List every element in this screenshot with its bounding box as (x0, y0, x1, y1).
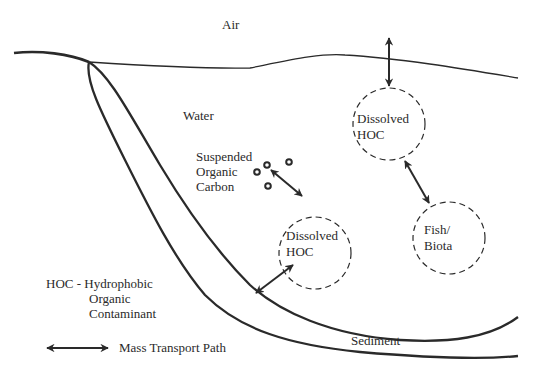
suspended-label-3: Carbon (196, 179, 235, 194)
particle-icon (254, 169, 260, 175)
arrow-dissolved-fish (405, 161, 429, 203)
dissolved-top-label-1: Dissolved (357, 111, 410, 126)
fish-label-2: Biota (424, 238, 452, 253)
water-label: Water (183, 108, 214, 123)
fish-label-1: Fish/ (424, 222, 450, 237)
legend-hoc-line-2: Organic (89, 291, 131, 306)
legend-arrow-label: Mass Transport Path (119, 340, 226, 355)
arrow-suspended-dissolved (271, 170, 302, 196)
air-label: Air (222, 17, 240, 32)
particle-icon (286, 159, 292, 165)
shore-bank-line (14, 52, 89, 62)
legend-hoc-line-3: Contaminant (89, 306, 157, 321)
suspended-label-1: Suspended (196, 149, 253, 164)
particle-icon (265, 183, 271, 189)
particle-icon (264, 162, 270, 168)
diagram-canvas: Air Water Sediment Dissolved HOC Dissolv… (0, 0, 535, 379)
sediment-upper-boundary (89, 62, 518, 341)
suspended-carbon-particles (254, 159, 292, 189)
dissolved-mid-label-1: Dissolved (286, 228, 339, 243)
legend-hoc-line-1: HOC - Hydrophobic (46, 276, 153, 291)
water-surface-line (89, 55, 518, 78)
diagram-svg: Air Water Sediment Dissolved HOC Dissolv… (0, 0, 535, 379)
dissolved-top-label-2: HOC (357, 127, 384, 142)
suspended-label-2: Organic (196, 164, 238, 179)
arrow-dissolved-sediment (256, 265, 293, 293)
dissolved-mid-label-2: HOC (286, 244, 313, 259)
sediment-label: Sediment (351, 333, 400, 348)
